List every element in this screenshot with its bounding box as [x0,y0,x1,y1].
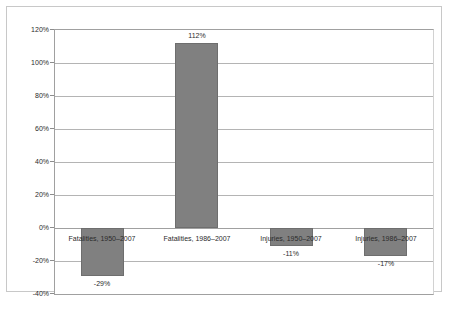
y-axis-tick-label: 80% [9,92,49,99]
y-axis-tick-label: 0% [9,224,49,231]
gridline [55,129,433,130]
bar [364,228,407,256]
category-label: Injuries, 1986–2007 [336,235,436,242]
y-axis-tick-label: 60% [9,125,49,132]
gridline [55,96,433,97]
bar-value-label: -17% [356,260,416,267]
gridline [55,162,433,163]
category-label: Fatalities, 1986–2007 [147,235,247,242]
y-axis-tick-label: -40% [9,290,49,297]
bar-value-label: -29% [72,280,132,287]
bar [175,43,218,228]
gridline [55,195,433,196]
y-axis-tick-label: -20% [9,257,49,264]
y-axis-tick-label: 100% [9,59,49,66]
gridline [55,63,433,64]
plot-area: -29%112%-11%-17% Fatalities, 1950–2007Fa… [54,29,434,295]
y-axis-tick-label: 40% [9,158,49,165]
category-label: Fatalities, 1950–2007 [52,235,152,242]
bar-value-label: 112% [167,32,227,39]
chart-frame: 120%100%80%60%40%20%0%-20%-40% -29%112%-… [6,6,442,292]
bar-value-label: -11% [261,250,321,257]
y-axis-tick-label: 20% [9,191,49,198]
category-label: Injuries, 1950–2007 [241,235,341,242]
y-axis-tick-label: 120% [9,26,49,33]
